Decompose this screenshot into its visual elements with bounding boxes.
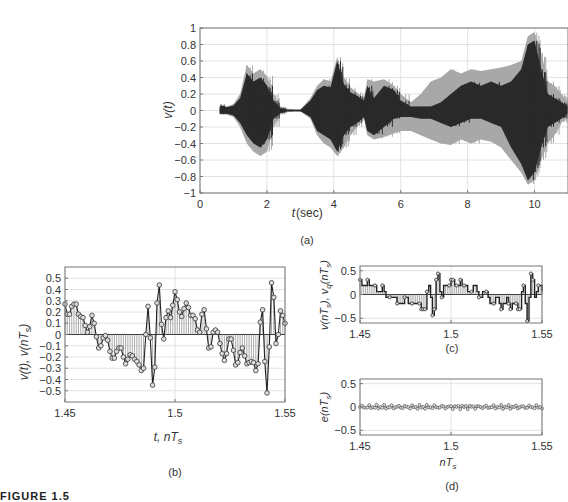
data-marker: [137, 363, 142, 368]
data-marker: [396, 302, 399, 305]
data-marker: [526, 320, 529, 323]
data-marker: [236, 360, 241, 365]
data-marker: [108, 349, 113, 354]
tick-label-y: 0: [55, 329, 61, 341]
data-marker: [141, 366, 146, 371]
data-marker: [451, 278, 454, 281]
tick-label-y: 0.2: [46, 306, 61, 318]
tick-label-y: 0.4: [46, 284, 61, 296]
data-marker: [90, 313, 95, 318]
tick-label-y: −1: [183, 187, 196, 199]
chart-b-y-axis-label: v(t), v(nTs): [17, 324, 33, 381]
tick-label-x: 2: [264, 198, 270, 210]
data-marker: [267, 345, 272, 350]
tick-label-y: 0: [190, 105, 196, 117]
data-marker: [462, 284, 465, 287]
tick-label-x: 1.5: [443, 440, 458, 452]
data-marker: [215, 330, 220, 335]
data-marker: [170, 303, 175, 308]
data-marker: [182, 306, 187, 311]
data-marker: [175, 297, 180, 302]
data-marker: [220, 351, 225, 356]
data-marker: [87, 324, 92, 329]
chart-a-x-axis-label-unit: (sec): [296, 206, 323, 220]
data-marker: [403, 296, 406, 299]
data-marker: [388, 296, 391, 299]
tick-label-x: 6: [398, 198, 404, 210]
tick-label-x: 1.45: [54, 407, 75, 419]
data-marker: [280, 313, 285, 318]
tick-label-y: 0.5: [46, 272, 61, 284]
data-marker: [423, 308, 426, 311]
data-marker: [375, 403, 378, 406]
data-marker: [466, 408, 469, 411]
tick-label-y: −0.5: [334, 424, 356, 436]
data-marker: [459, 278, 462, 281]
data-marker: [373, 284, 376, 287]
tick-label-y: 0.4: [181, 72, 196, 84]
data-marker: [477, 296, 480, 299]
data-marker: [531, 278, 534, 281]
tick-label-y: −0.8: [174, 171, 196, 183]
chart-d-panel-label: (d): [445, 480, 458, 492]
data-marker: [103, 333, 108, 338]
data-marker: [435, 278, 438, 281]
data-marker: [85, 330, 90, 335]
chart-a-panel-label: (a): [300, 234, 313, 246]
data-marker: [410, 302, 413, 305]
data-marker: [262, 359, 267, 364]
data-marker: [166, 309, 171, 314]
data-marker: [514, 302, 517, 305]
data-marker: [260, 307, 265, 312]
tick-label-y: −0.4: [39, 374, 61, 386]
data-marker: [459, 408, 462, 411]
tick-label-y: −0.2: [39, 351, 61, 363]
chart-b-y-ticks: −0.5−0.4−0.3−0.2−0.100.10.20.30.40.5: [39, 272, 68, 397]
chart-a: −1−0.8−0.6−0.4−0.200.20.40.60.81 0246810…: [161, 22, 568, 246]
data-marker: [157, 283, 162, 288]
data-marker: [500, 403, 503, 406]
data-marker: [159, 322, 164, 327]
data-marker: [433, 308, 436, 311]
tick-label-y: 0.2: [181, 88, 196, 100]
data-marker: [425, 290, 428, 293]
data-marker: [238, 350, 243, 355]
data-marker: [119, 346, 124, 351]
data-marker: [240, 346, 245, 351]
tick-label-y: 0.8: [181, 39, 196, 51]
tick-label-x: 10: [528, 198, 540, 210]
data-marker: [155, 301, 160, 306]
data-marker: [179, 314, 184, 319]
data-marker: [209, 345, 214, 350]
data-marker: [416, 407, 419, 410]
data-marker: [126, 357, 131, 362]
tick-label-y: −0.5: [39, 385, 61, 397]
tick-label-x: 1.5: [443, 328, 458, 340]
tick-label-x: 1.55: [531, 328, 552, 340]
chart-c-y-ticks: −0.500.5: [334, 265, 363, 325]
data-marker: [184, 301, 189, 306]
tick-label-y: 0: [350, 401, 356, 413]
data-marker: [507, 302, 510, 305]
data-marker: [81, 315, 86, 320]
chart-a-y-axis-label: v(t): [161, 101, 175, 118]
data-marker: [202, 307, 207, 312]
data-marker: [254, 368, 259, 373]
tick-label-y: 0.5: [341, 378, 356, 390]
data-marker: [509, 308, 512, 311]
data-marker: [383, 403, 386, 406]
data-marker: [168, 315, 173, 320]
chart-c-panel-label: (c): [446, 342, 459, 354]
data-marker: [500, 308, 503, 311]
tick-label-x: 1.5: [167, 407, 182, 419]
data-marker: [193, 316, 198, 321]
data-marker: [258, 320, 263, 325]
tick-label-y: 0.1: [46, 317, 61, 329]
data-marker: [390, 404, 393, 407]
tick-label-y: −0.4: [174, 138, 196, 150]
data-marker: [515, 404, 518, 407]
data-marker: [271, 295, 276, 300]
figure-caption: FIGURE 1.5: [0, 490, 70, 502]
data-marker: [144, 332, 149, 337]
